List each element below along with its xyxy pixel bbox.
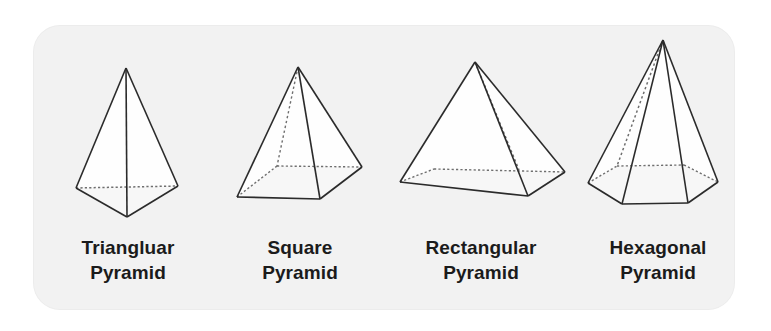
label-triangular-pyramid-line1: Triangluar xyxy=(46,235,210,260)
label-rectangular-pyramid: Rectangular Pyramid xyxy=(388,235,574,285)
label-triangular-pyramid-line2: Pyramid xyxy=(46,260,210,285)
hexagonal-pyramid-base-edge-front-2 xyxy=(622,203,688,204)
label-hexagonal-pyramid-line1: Hexagonal xyxy=(570,235,746,260)
label-hexagonal-pyramid-line2: Pyramid xyxy=(570,260,746,285)
triangular-pyramid-edge-front xyxy=(126,68,127,217)
triangular-pyramid-drawing xyxy=(76,68,178,217)
triangular-pyramid-left-face xyxy=(76,68,127,217)
label-square-pyramid: Square Pyramid xyxy=(222,235,378,285)
square-pyramid-drawing xyxy=(237,67,362,199)
triangular-pyramid-right-face xyxy=(126,68,178,217)
label-rectangular-pyramid-line2: Pyramid xyxy=(388,260,574,285)
pyramids-figure: Triangluar Pyramid Square Pyramid Rectan… xyxy=(0,0,771,331)
rectangular-pyramid-drawing xyxy=(400,62,565,196)
label-hexagonal-pyramid: Hexagonal Pyramid xyxy=(570,235,746,285)
label-triangular-pyramid: Triangluar Pyramid xyxy=(46,235,210,285)
label-square-pyramid-line2: Pyramid xyxy=(222,260,378,285)
label-square-pyramid-line1: Square xyxy=(222,235,378,260)
hexagonal-pyramid-drawing xyxy=(588,40,718,204)
label-rectangular-pyramid-line1: Rectangular xyxy=(388,235,574,260)
